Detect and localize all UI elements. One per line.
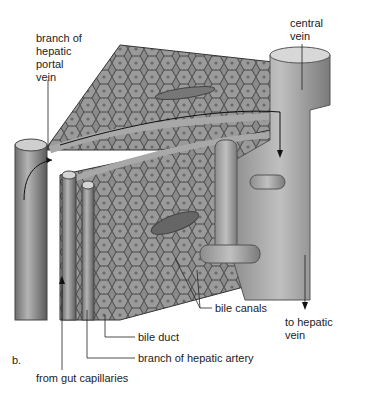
label-to-hepatic-vein: to hepatic vein (285, 316, 333, 342)
label-hepatic-artery: branch of hepatic artery (138, 352, 254, 365)
panel-label: b. (12, 354, 21, 367)
label-bile-canals: bile canals (215, 302, 267, 315)
label-portal-vein: branch of hepatic portal vein (36, 32, 82, 84)
label-central-vein: central vein (290, 17, 323, 43)
label-bile-duct: bile duct (138, 331, 179, 344)
label-gut-capillaries: from gut capillaries (36, 372, 128, 385)
